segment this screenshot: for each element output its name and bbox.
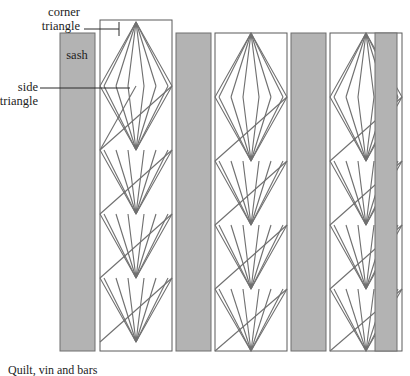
- sash-rect-1: [60, 33, 95, 351]
- caption-text: Quilt, vin and bars: [8, 363, 98, 376]
- sash-label: sash: [66, 48, 88, 62]
- sash-column-1: [60, 33, 95, 351]
- corner-triangle-label-line1: corner: [48, 5, 81, 19]
- label-side-triangle: side triangle: [0, 80, 38, 108]
- sash-rect-3: [291, 33, 326, 351]
- sash-rect-2: [176, 33, 211, 351]
- sash-column-2: [176, 33, 211, 351]
- sash-column-4: [375, 33, 397, 351]
- corner-triangle-label-line2: triangle: [42, 19, 81, 33]
- side-triangle-label-line1: side: [18, 80, 39, 94]
- sash-column-3: [291, 33, 326, 351]
- figure-caption: Quilt, vin and bars: [8, 363, 98, 376]
- label-sash: sash: [66, 48, 88, 62]
- lattice-panel-1: [100, 20, 172, 351]
- side-triangle-label-line2: triangle: [0, 94, 38, 108]
- figure-root: corner triangle side triangle sash Quilt…: [0, 0, 410, 376]
- label-corner-triangle: corner triangle: [42, 5, 81, 33]
- lattice-column-2: [215, 33, 287, 351]
- sash-rect-4: [375, 33, 397, 351]
- lattice-column-1: [100, 20, 172, 351]
- lattice-figure: corner triangle side triangle sash Quilt…: [0, 0, 410, 376]
